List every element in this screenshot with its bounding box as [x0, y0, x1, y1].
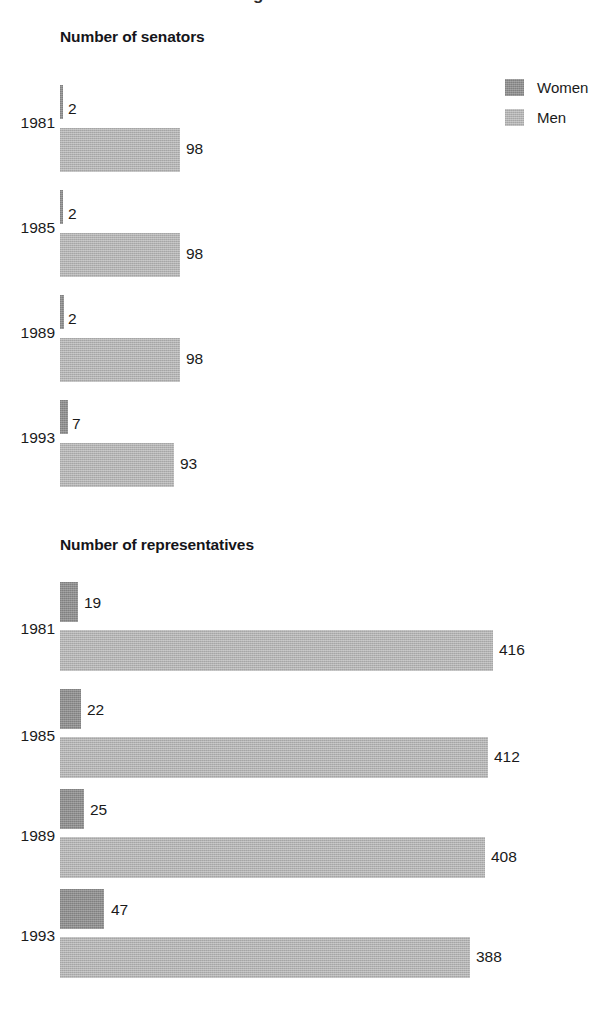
senators-year-label-1989: 1989 — [0, 324, 55, 342]
senators-bar-men-1989 — [60, 338, 180, 382]
senators-value-men-1981: 98 — [186, 140, 203, 158]
reps-bar-men-1985 — [60, 737, 488, 778]
reps-bar-men-1981 — [60, 630, 493, 671]
senators-value-men-1989: 98 — [186, 350, 203, 368]
senators-value-women-1993: 7 — [72, 415, 81, 433]
reps-value-women-1989: 25 — [90, 801, 107, 819]
senators-bar-men-1985 — [60, 233, 180, 277]
reps-value-women-1993: 47 — [111, 901, 128, 919]
reps-value-men-1981: 416 — [499, 641, 525, 659]
reps-bar-women-1989 — [60, 789, 84, 829]
senators-value-men-1993: 93 — [180, 455, 197, 473]
reps-value-women-1981: 19 — [84, 594, 101, 612]
reps-value-men-1985: 412 — [494, 748, 520, 766]
senators-bar-women-1989 — [60, 295, 64, 329]
reps-value-men-1993: 388 — [476, 948, 502, 966]
reps-value-women-1985: 22 — [87, 701, 104, 719]
senators-year-label-1993: 1993 — [0, 429, 55, 447]
reps-bar-men-1989 — [60, 837, 485, 878]
reps-year-label-1981: 1981 — [0, 620, 55, 638]
senators-value-men-1985: 98 — [186, 245, 203, 263]
senators-bar-women-1993 — [60, 400, 68, 434]
reps-bar-men-1993 — [60, 937, 470, 978]
reps-value-men-1989: 408 — [491, 848, 517, 866]
senators-bar-women-1985 — [60, 190, 63, 224]
senators-value-women-1985: 2 — [68, 205, 77, 223]
senators-value-women-1989: 2 — [68, 310, 77, 328]
reps-year-label-1985: 1985 — [0, 727, 55, 745]
reps-year-label-1989: 1989 — [0, 827, 55, 845]
representatives-chart-plot-area: 1981 19 416 1985 22 412 1989 25 408 1993… — [0, 578, 612, 998]
senators-section-title: Number of senators — [60, 28, 205, 46]
reps-year-label-1993: 1993 — [0, 927, 55, 945]
senators-bar-men-1981 — [60, 128, 180, 172]
senators-year-label-1981: 1981 — [0, 114, 55, 132]
senators-chart-plot-area: 1981 2 98 1985 2 98 1989 2 98 1993 7 93 — [0, 80, 612, 480]
reps-bar-women-1981 — [60, 582, 78, 622]
clipped-page-header-text: Women in the U.S. Congress — [60, 0, 300, 5]
clipped-page-header: Women in the U.S. Congress — [0, 0, 612, 11]
senators-bar-women-1981 — [60, 85, 63, 119]
representatives-section-title: Number of representatives — [60, 536, 254, 554]
reps-bar-women-1985 — [60, 689, 81, 729]
reps-bar-women-1993 — [60, 889, 104, 929]
senators-value-women-1981: 2 — [68, 100, 77, 118]
senators-bar-men-1993 — [60, 443, 174, 487]
senators-year-label-1985: 1985 — [0, 219, 55, 237]
